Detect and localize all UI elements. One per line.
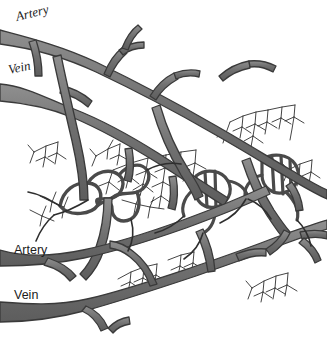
label-artery-bottom: Artery (14, 243, 47, 257)
vascular-illustration: Artery Vein Artery Vein (0, 0, 327, 338)
label-vein-bottom: Vein (14, 288, 38, 302)
vessel-diagram-canvas (0, 0, 327, 338)
